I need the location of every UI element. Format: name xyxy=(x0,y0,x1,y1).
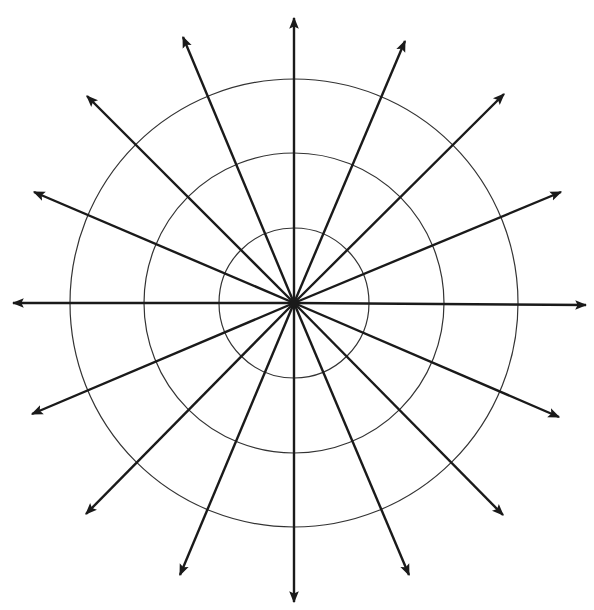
center-point xyxy=(290,299,298,307)
arrow-ray-3 xyxy=(294,94,504,303)
arrow-ray-15 xyxy=(87,96,294,303)
arrow-ray-5 xyxy=(294,303,586,305)
arrow-ray-11 xyxy=(86,303,294,514)
radial-arrows xyxy=(13,18,586,602)
arrow-ray-7 xyxy=(294,303,503,515)
polar-ray-diagram xyxy=(0,0,594,610)
